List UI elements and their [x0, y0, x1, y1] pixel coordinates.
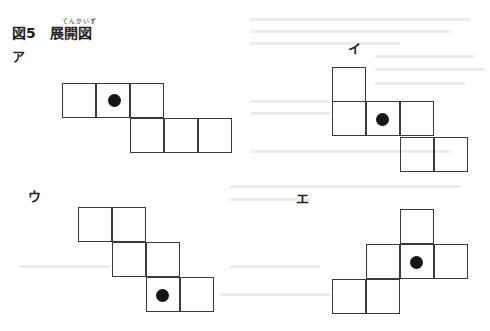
- net-square: [146, 242, 180, 277]
- bleed-line: [375, 82, 465, 85]
- dot-marker-icon: [410, 256, 423, 269]
- figure-title-label: 展開図: [50, 25, 92, 41]
- option-label: エ: [296, 188, 309, 207]
- dot-marker-icon: [376, 113, 389, 126]
- net-square: [400, 101, 434, 136]
- net-square: [400, 137, 434, 172]
- bleed-line: [250, 112, 330, 115]
- bleed-line: [20, 265, 110, 268]
- net-square: [130, 83, 164, 118]
- net-square: [332, 279, 366, 314]
- dot-marker-icon: [156, 289, 169, 302]
- figure-title: 図5てんかいず展開図: [12, 22, 92, 42]
- option-label: ウ: [28, 186, 41, 205]
- bleed-line: [375, 68, 485, 71]
- net-square: [434, 137, 468, 172]
- option-label: イ: [348, 38, 361, 57]
- figure-title-ruby: てんかいず: [62, 16, 97, 25]
- figure-title-text: てんかいず展開図: [50, 25, 92, 41]
- figure-number: 図5: [12, 25, 36, 41]
- net-square: [366, 279, 400, 314]
- bleed-line: [230, 265, 320, 268]
- bleed-line: [250, 18, 470, 21]
- option-label: ア: [12, 46, 25, 65]
- net-square: [112, 207, 146, 242]
- bleed-line: [250, 42, 400, 45]
- net-square: [198, 118, 232, 153]
- bleed-line: [250, 30, 450, 33]
- net-square: [112, 242, 146, 277]
- dot-marker-icon: [108, 94, 121, 107]
- net-square: [434, 244, 468, 279]
- net-square: [180, 277, 214, 312]
- net-square: [78, 207, 112, 242]
- bleed-line: [230, 185, 460, 188]
- net-square: [366, 244, 400, 279]
- bleed-line: [375, 55, 475, 58]
- bleed-line: [220, 293, 330, 296]
- bleed-line: [250, 100, 330, 103]
- net-square: [164, 118, 198, 153]
- net-square: [332, 67, 366, 102]
- net-square: [332, 101, 366, 136]
- net-square: [130, 118, 164, 153]
- net-square: [62, 83, 96, 118]
- net-square: [400, 209, 434, 244]
